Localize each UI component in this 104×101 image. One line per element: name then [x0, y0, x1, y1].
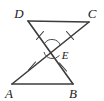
segment-DC	[28, 21, 89, 22]
angle-arc-DEC	[45, 39, 61, 45]
vertex-label-B: B	[69, 86, 77, 101]
vertex-label-C: C	[88, 6, 97, 21]
geometry-figure: D C E A B	[0, 0, 104, 101]
vertex-label-D: D	[13, 6, 24, 21]
geometry-diagram: D C E A B	[0, 0, 104, 101]
vertex-label-A: A	[4, 86, 13, 101]
vertex-label-E: E	[61, 49, 69, 61]
segment-C-to-A	[12, 22, 89, 84]
